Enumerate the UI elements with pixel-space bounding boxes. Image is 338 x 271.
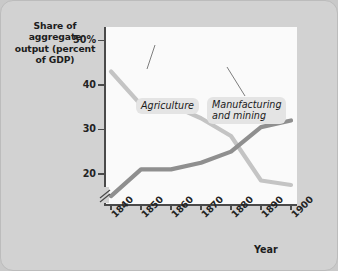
y-axis-tick-mark: [98, 129, 105, 130]
chart-figure-frame: Share of aggregate output (percent of GD…: [0, 0, 338, 271]
manufacturing-series-label: Manufacturing and mining: [207, 97, 286, 124]
y-axis-tick-label: 20: [50, 168, 96, 179]
y-axis-tick-label: 50%: [50, 34, 96, 45]
manufacturing-leader-line: [227, 67, 245, 96]
agriculture-series-label-text: Agriculture: [141, 100, 194, 111]
manufacturing-and-mining-line: [111, 120, 291, 196]
y-axis-tick-mark: [98, 40, 105, 41]
y-axis-tick-label: 40: [50, 79, 96, 90]
y-axis-spine: [104, 27, 106, 205]
y-axis-break-icon: [98, 187, 112, 203]
agriculture-leader-line: [147, 45, 155, 69]
manufacturing-series-label-line-1: Manufacturing: [212, 99, 281, 110]
y-axis-tick-mark: [98, 84, 105, 85]
agriculture-series-label: Agriculture: [136, 98, 199, 114]
x-axis-title: Year: [254, 244, 278, 255]
y-axis-tick-labels: 50%403020: [46, 1, 96, 271]
y-axis-tick-mark: [98, 173, 105, 174]
manufacturing-series-label-line-2: and mining: [212, 110, 281, 121]
y-axis-tick-label: 30: [50, 123, 96, 134]
